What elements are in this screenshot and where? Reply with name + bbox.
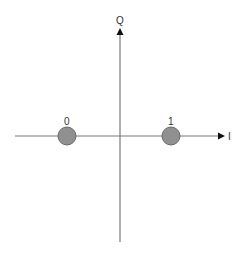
- constellation-point-0: [58, 127, 76, 145]
- point-1-label: 1: [168, 116, 174, 127]
- q-axis-arrow-icon: [117, 28, 124, 35]
- i-axis-arrow-icon: [218, 133, 225, 140]
- constellation-diagram: I Q 0 1: [0, 0, 241, 260]
- constellation-point-1: [162, 127, 180, 145]
- i-axis-label: I: [228, 131, 231, 142]
- q-axis-label: Q: [116, 15, 124, 26]
- point-0-label: 0: [64, 116, 70, 127]
